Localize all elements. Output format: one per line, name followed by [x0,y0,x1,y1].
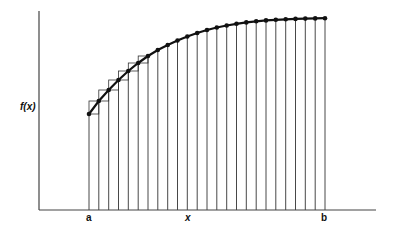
partition-lines [89,18,325,210]
b-label: b [321,212,327,223]
y-axis-label: f(x) [20,101,36,112]
a-label: a [86,212,92,223]
x-axis-label: x [185,212,191,223]
riemann-sum-figure [0,0,395,233]
